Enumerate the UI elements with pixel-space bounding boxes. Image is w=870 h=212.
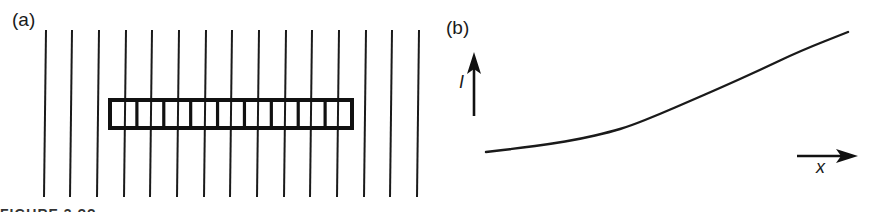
- field-line: [204, 30, 206, 197]
- field-line: [390, 30, 392, 197]
- field-line: [97, 30, 99, 197]
- field-line: [257, 30, 259, 197]
- field-line: [150, 30, 152, 197]
- panel-b-label: (b): [446, 17, 469, 39]
- field-line: [284, 30, 286, 197]
- field-line: [364, 30, 366, 197]
- field-line: [310, 30, 312, 197]
- y-axis-arrow: [467, 52, 481, 116]
- figure-caption-text: FIGURE 3.??: [0, 207, 200, 212]
- field-line: [177, 30, 179, 197]
- field-line: [70, 30, 72, 197]
- field-line: [337, 30, 339, 197]
- x-axis-label: x: [816, 157, 825, 178]
- intensity-curve: [486, 32, 848, 152]
- field-line: [417, 30, 419, 197]
- field-lines: [44, 30, 419, 197]
- field-line: [230, 30, 232, 197]
- y-axis-label: I: [459, 72, 464, 93]
- field-line: [44, 30, 46, 197]
- figure-caption: FIGURE 3.??: [0, 204, 200, 212]
- x-axis-arrow: [797, 149, 858, 163]
- field-line: [124, 30, 126, 197]
- figure-canvas: [0, 0, 870, 212]
